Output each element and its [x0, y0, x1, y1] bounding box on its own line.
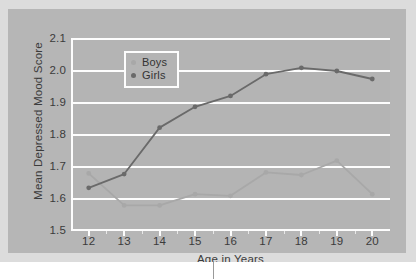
data-point-girls	[157, 125, 162, 130]
data-point-boys	[264, 170, 269, 175]
x-tick-label: 17	[259, 235, 272, 247]
data-point-girls	[122, 172, 127, 177]
y-tick-label: 1.5	[49, 224, 66, 236]
legend-item-girls[interactable]: Girls	[131, 69, 167, 82]
data-point-boys	[334, 158, 339, 163]
x-tick-minor	[355, 231, 356, 234]
chart-legend[interactable]: Boys Girls	[124, 51, 179, 88]
data-point-girls	[193, 104, 198, 109]
x-tick-label: 18	[295, 235, 308, 247]
plot-area: Boys Girls	[71, 39, 390, 231]
y-tick-label: 1.9	[49, 96, 66, 108]
page-fold-mark	[213, 262, 214, 279]
x-tick-minor	[142, 231, 143, 234]
x-tick-minor	[248, 231, 249, 234]
x-tick-label: 14	[153, 235, 166, 247]
data-point-boys	[86, 171, 91, 176]
x-tick-label: 16	[224, 235, 237, 247]
data-point-boys	[228, 193, 233, 198]
legend-label-girls: Girls	[142, 69, 166, 82]
y-tick-label: 2.0	[49, 64, 66, 76]
data-point-boys	[122, 203, 127, 208]
y-tick-label: 1.7	[49, 160, 66, 172]
legend-item-boys[interactable]: Boys	[131, 56, 167, 69]
data-series-layer	[71, 39, 390, 231]
x-tick-label: 12	[82, 235, 95, 247]
y-tick-label: 1.6	[49, 192, 66, 204]
x-tick-label: 13	[118, 235, 131, 247]
page-bottom-margin	[0, 262, 416, 279]
x-tick-label: 15	[188, 235, 201, 247]
y-axis-tick-labels: 2.12.01.91.81.71.61.5	[30, 39, 66, 231]
x-tick-minor	[213, 231, 214, 234]
series-line-boys	[89, 161, 373, 206]
data-point-boys	[193, 192, 198, 197]
legend-label-boys: Boys	[142, 56, 167, 69]
chart-page: Mean Depressed Mood Score 2.12.01.91.81.…	[0, 0, 416, 279]
x-tick-minor	[106, 231, 107, 234]
data-point-girls	[334, 69, 339, 74]
chart-figure: Mean Depressed Mood Score 2.12.01.91.81.…	[8, 9, 406, 253]
data-point-boys	[299, 173, 304, 178]
x-tick-minor	[177, 231, 178, 234]
y-tick-label: 2.1	[49, 32, 66, 44]
legend-marker-girls-icon	[131, 73, 136, 78]
data-point-girls	[370, 77, 375, 82]
x-axis-tick-labels: 121314151617181920	[71, 235, 390, 253]
data-point-boys	[370, 192, 375, 197]
y-tick-label: 1.8	[49, 128, 66, 140]
x-tick-label: 19	[330, 235, 343, 247]
legend-marker-boys-icon	[131, 60, 136, 65]
x-tick-minor	[284, 231, 285, 234]
x-tick-minor	[319, 231, 320, 234]
data-point-girls	[264, 72, 269, 77]
x-tick-label: 20	[366, 235, 379, 247]
data-point-girls	[228, 94, 233, 99]
data-point-boys	[157, 203, 162, 208]
data-point-girls	[86, 185, 91, 190]
data-point-girls	[299, 65, 304, 70]
